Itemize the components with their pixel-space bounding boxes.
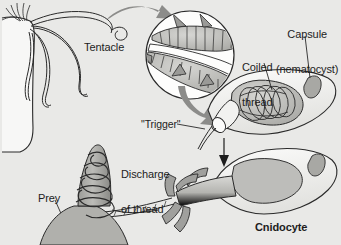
label-discharge-line2: of thread [121,204,170,216]
label-coiled-line2: thread [242,97,273,109]
label-trigger: "Trigger" [141,119,180,130]
tentacles [25,11,127,107]
label-coiled-thread: Coiled thread [242,39,273,131]
label-capsule: Capsule (nematocyst) [276,6,338,98]
label-capsule-line1: Capsule [276,29,338,41]
label-discharge-line1: Discharge [121,169,170,181]
label-tentacle: Tentacle [84,42,124,54]
down-arrow-icon [219,138,229,167]
label-capsule-line2: (nematocyst) [276,64,338,76]
label-discharge-of-thread: Discharge of thread [121,146,170,238]
label-coiled-line1: Coiled [242,62,273,74]
cnidocyte-diagram: Tentacle Capsule (nematocyst) Coiled thr… [0,0,341,245]
label-prey: Prey [38,193,60,205]
label-cnidocyte: Cnidocyte [255,222,307,234]
